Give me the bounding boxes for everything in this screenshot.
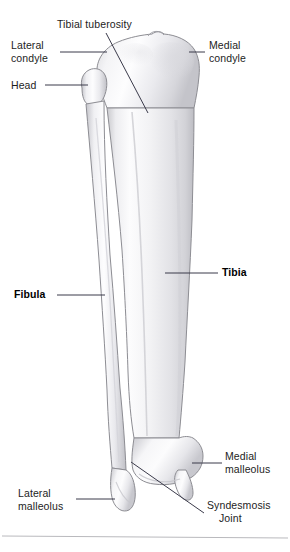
fibular-head [81, 69, 106, 106]
label-lateral-condyle: Lateral condyle [11, 39, 48, 64]
lateral-malleolus [111, 468, 136, 511]
label-syndesmosis-line1: Syndesmosis [207, 499, 271, 511]
tibia-distal-epiphysis [132, 437, 203, 485]
label-fibula: Fibula [14, 288, 46, 301]
label-fibular-head: Head [11, 79, 37, 92]
label-lateral-malleolus: Lateral malleolus [18, 487, 63, 512]
label-syndesmosis-line2: Joint [207, 512, 271, 525]
anatomy-figure: Tibial tuberosity Lateral condyle Head M… [0, 0, 290, 552]
label-tibia: Tibia [222, 266, 247, 279]
bottom-divider [2, 536, 288, 538]
label-medial-condyle: Medial condyle [209, 39, 246, 64]
label-medial-malleolus: Medial malleolus [225, 450, 270, 475]
label-syndesmosis-joint: SyndesmosisJoint [207, 499, 271, 524]
label-tibial-tuberosity: Tibial tuberosity [57, 18, 132, 31]
